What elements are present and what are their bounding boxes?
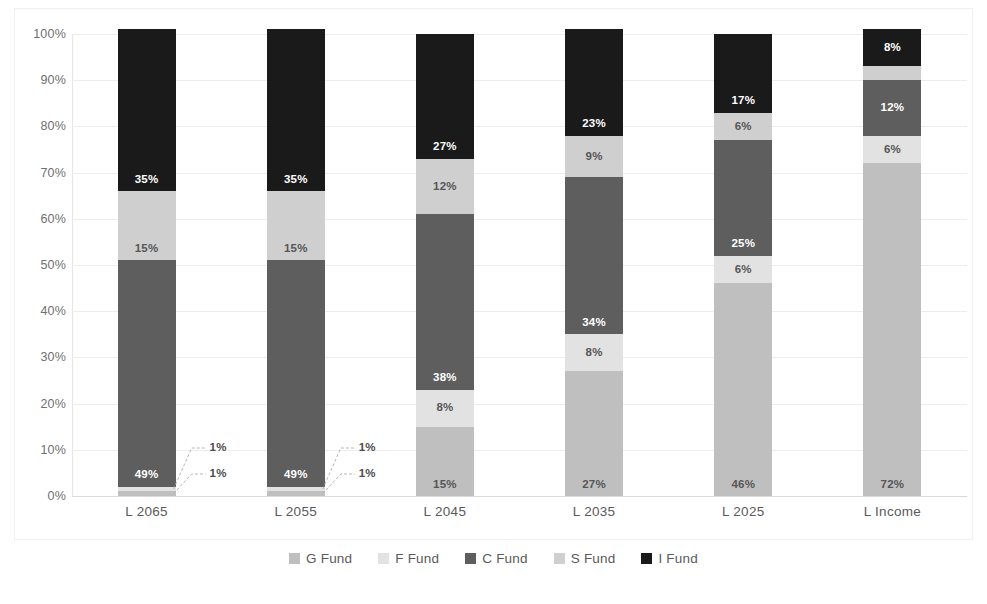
bar-column[interactable]: 15%8%38%12%27% bbox=[416, 34, 474, 496]
bar-segment[interactable]: 38% bbox=[416, 214, 474, 390]
y-tick-label: 40% bbox=[6, 304, 66, 318]
gridline bbox=[72, 357, 967, 358]
legend-item[interactable]: G Fund bbox=[289, 551, 352, 566]
y-tick-label: 0% bbox=[6, 489, 66, 503]
bar-segment[interactable]: 35% bbox=[118, 29, 176, 191]
bar-segment[interactable]: 15% bbox=[416, 427, 474, 496]
bar-segment-value-label: 15% bbox=[433, 479, 457, 491]
bar-segment[interactable]: 1% bbox=[267, 491, 325, 496]
legend-label: I Fund bbox=[658, 551, 697, 566]
x-axis-line bbox=[72, 496, 967, 497]
bar-segment[interactable]: 34% bbox=[565, 177, 623, 334]
legend-swatch-icon bbox=[289, 553, 300, 564]
bar-segment[interactable]: 8% bbox=[416, 390, 474, 427]
y-tick-label: 100% bbox=[6, 27, 66, 41]
bar-segment[interactable]: 27% bbox=[416, 34, 474, 159]
y-tick-label: 80% bbox=[6, 119, 66, 133]
bar-column[interactable]: 46%6%25%6%17% bbox=[714, 34, 772, 496]
y-tick-label: 10% bbox=[6, 443, 66, 457]
bar-segment[interactable]: 1% bbox=[267, 487, 325, 492]
bar-segment[interactable]: 17% bbox=[714, 34, 772, 113]
bar-segment-value-label: 12% bbox=[433, 181, 457, 193]
bar-segment[interactable]: 9% bbox=[565, 136, 623, 178]
bar-segment-value-label: 46% bbox=[731, 479, 755, 491]
bar-segment-value-label: 15% bbox=[284, 243, 308, 255]
legend-label: G Fund bbox=[306, 551, 352, 566]
bar-column[interactable]: 27%8%34%9%23% bbox=[565, 34, 623, 496]
legend-item[interactable]: I Fund bbox=[641, 551, 697, 566]
bar-segment[interactable]: 6% bbox=[714, 256, 772, 284]
bar-segment[interactable]: 49% bbox=[267, 260, 325, 486]
bar-segment-callout-label: 1% bbox=[210, 467, 227, 479]
plot-area: 1%1%49%15%35%1%1%49%15%35%15%8%38%12%27%… bbox=[72, 34, 967, 496]
bar-segment[interactable]: 49% bbox=[118, 260, 176, 486]
bar-segment-value-label: 27% bbox=[582, 479, 606, 491]
bar-segment[interactable]: 15% bbox=[267, 191, 325, 260]
bar-segment[interactable]: 12% bbox=[416, 159, 474, 214]
bar-segment[interactable]: 8% bbox=[565, 334, 623, 371]
bar-segment-callout-label: 1% bbox=[359, 441, 376, 453]
bar-segment-value-label: 38% bbox=[433, 372, 457, 384]
y-tick-label: 70% bbox=[6, 166, 66, 180]
x-tick-label: L 2045 bbox=[385, 504, 505, 519]
bar-segment-value-label: 49% bbox=[284, 469, 308, 481]
bar-segment-value-label: 8% bbox=[436, 402, 453, 414]
y-tick-label: 60% bbox=[6, 212, 66, 226]
x-tick-label: L 2025 bbox=[683, 504, 803, 519]
y-tick-label: 50% bbox=[6, 258, 66, 272]
gridline bbox=[72, 311, 967, 312]
bar-column[interactable]: 72%6%12%3%8% bbox=[863, 34, 921, 496]
gridline bbox=[72, 173, 967, 174]
bar-segment[interactable]: 15% bbox=[118, 191, 176, 260]
gridline bbox=[72, 34, 967, 35]
bar-segment[interactable]: 23% bbox=[565, 29, 623, 135]
bar-segment[interactable]: 27% bbox=[565, 371, 623, 496]
bar-segment-value-label: 35% bbox=[284, 174, 308, 186]
bar-column[interactable]: 1%1%49%15%35% bbox=[267, 34, 325, 496]
bar-column[interactable]: 1%1%49%15%35% bbox=[118, 34, 176, 496]
bar-segment[interactable]: 6% bbox=[714, 113, 772, 141]
bar-segment[interactable]: 72% bbox=[863, 163, 921, 496]
bar-segment[interactable]: 6% bbox=[863, 136, 921, 164]
bar-segment[interactable]: 8% bbox=[863, 29, 921, 66]
bar-segment[interactable]: 3% bbox=[863, 66, 921, 80]
x-tick-label: L 2055 bbox=[236, 504, 356, 519]
bar-segment-value-label: 6% bbox=[884, 144, 901, 156]
legend-item[interactable]: F Fund bbox=[378, 551, 439, 566]
bar-segment[interactable]: 1% bbox=[118, 491, 176, 496]
bar-segment[interactable]: 25% bbox=[714, 140, 772, 256]
x-tick-label: L Income bbox=[832, 504, 952, 519]
bar-segment-value-label: 72% bbox=[881, 479, 905, 491]
bar-segment-value-label: 34% bbox=[582, 317, 606, 329]
bar-segment[interactable]: 12% bbox=[863, 80, 921, 135]
bar-segment-callout-label: 1% bbox=[359, 467, 376, 479]
bar-segment-value-label: 12% bbox=[881, 102, 905, 114]
gridline bbox=[72, 219, 967, 220]
legend-label: C Fund bbox=[482, 551, 527, 566]
gridline bbox=[72, 126, 967, 127]
chart-legend: G FundF FundC FundS FundI Fund bbox=[0, 551, 987, 566]
gridline bbox=[72, 265, 967, 266]
bar-segment[interactable]: 35% bbox=[267, 29, 325, 191]
stacked-bar-chart: 0%10%20%30%40%50%60%70%80%90%100% 1%1%49… bbox=[0, 0, 987, 604]
y-axis-tick-labels: 0%10%20%30%40%50%60%70%80%90%100% bbox=[0, 34, 66, 496]
bar-segment-value-label: 25% bbox=[731, 238, 755, 250]
gridline bbox=[72, 450, 967, 451]
bar-segment-value-label: 17% bbox=[731, 95, 755, 107]
legend-swatch-icon bbox=[465, 553, 476, 564]
legend-item[interactable]: S Fund bbox=[554, 551, 616, 566]
bar-segment-value-label: 9% bbox=[586, 151, 603, 163]
legend-swatch-icon bbox=[641, 553, 652, 564]
bar-segment-callout-label: 1% bbox=[210, 441, 227, 453]
y-tick-label: 20% bbox=[6, 397, 66, 411]
y-tick-label: 30% bbox=[6, 350, 66, 364]
legend-item[interactable]: C Fund bbox=[465, 551, 527, 566]
bar-segment-value-label: 6% bbox=[735, 121, 752, 133]
legend-swatch-icon bbox=[378, 553, 389, 564]
gridline bbox=[72, 404, 967, 405]
bar-segment[interactable]: 1% bbox=[118, 487, 176, 492]
legend-label: S Fund bbox=[571, 551, 616, 566]
bar-segment-value-label: 35% bbox=[135, 174, 159, 186]
bar-segment[interactable]: 46% bbox=[714, 283, 772, 496]
bar-segment-value-label: 6% bbox=[735, 264, 752, 276]
